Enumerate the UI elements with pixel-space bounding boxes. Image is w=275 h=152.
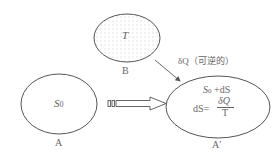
entropy-increment: +dS	[212, 84, 231, 95]
fraction-numerator: δQ	[218, 95, 230, 106]
node-a-prime-line1: S0 +dS	[203, 84, 230, 95]
node-a-prime-line2: dS=	[193, 103, 209, 114]
node-b-label: B	[122, 65, 129, 76]
node-a-subscript: 0	[60, 100, 64, 109]
node-b-content: T	[122, 29, 128, 41]
process-arrow	[108, 97, 166, 110]
heat-flow-label: δQ（可逆的）	[178, 54, 234, 67]
node-a-prime-label: A′	[212, 139, 221, 150]
heat-flow-arrow	[155, 60, 180, 81]
node-a-label: A	[55, 137, 62, 148]
node-a-content: S0	[54, 97, 64, 109]
fraction-denominator: T	[222, 107, 228, 118]
diagram-canvas	[0, 0, 275, 152]
